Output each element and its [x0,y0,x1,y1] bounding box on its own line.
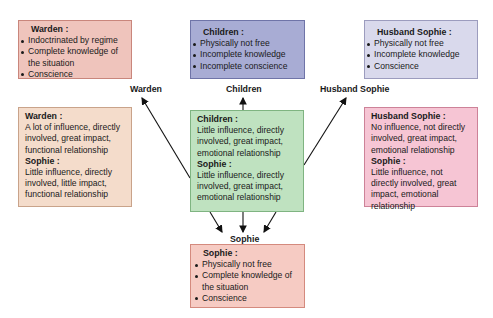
warden-traits-title: Warden : [25,24,126,35]
sophie-traits-box: Sophie : Physically not free Complete kn… [190,244,305,308]
children-trait: Incomplete knowledge [192,49,299,60]
children-trait: Incomplete conscience [192,61,299,72]
warden-relationship-box: Warden : A lot of influence, directly in… [18,107,132,207]
warden-rel-title: Warden : [25,111,126,122]
sophie-trait: Physically not free [194,259,299,270]
husband-trait: Incomplete knowledge [366,49,472,60]
husband-trait: Conscience [366,61,472,72]
sophie-rel-title: Sophie : [371,156,472,167]
sophie-rel-desc: Little influence, not directly involved,… [371,167,472,212]
sophie-rel-title: Sophie : [25,156,126,167]
children-traits-box: Children : Physically not free Incomplet… [190,20,305,79]
children-traits-title: Children : [197,27,299,38]
sophie-trait: Complete knowledge of the situation [194,270,299,292]
warden-rel-desc: A lot of influence, directly involved, g… [25,122,126,156]
husband-traits-title: Husband Sophie : [371,27,472,38]
husband-rel-desc: No influence, not directly involved, gre… [371,122,472,156]
husband-trait: Physically not free [366,38,472,49]
sophie-traits-title: Sophie : [197,248,299,259]
warden-trait: Complete knowledge of the situation [20,46,126,68]
center-relationship-box: Children : Little influence, directly in… [190,110,304,212]
children-label: Children [226,84,262,94]
husband-traits-box: Husband Sophie : Physically not free Inc… [364,20,478,79]
husband-relationship-box: Husband Sophie : No influence, not direc… [364,107,478,207]
warden-trait: Conscience [20,69,126,80]
children-rel-title: Children : [197,114,298,125]
sophie-rel-desc: Little influence, directly involved, lit… [25,167,126,201]
warden-label: Warden [130,84,162,94]
warden-trait: Indoctrinated by regime [20,35,126,46]
sophie-trait: Conscience [194,293,299,304]
sophie-label: Sophie [230,234,259,244]
husband-label: Husband Sophie [320,84,389,94]
children-trait: Physically not free [192,38,299,49]
sophie-rel-title: Sophie : [197,159,298,170]
children-rel-desc: Little influence, directly involved, gre… [197,125,298,159]
husband-rel-title: Husband Sophie : [371,111,472,122]
sophie-rel-desc: Little influence, directly involved, gre… [197,170,298,204]
warden-traits-box: Warden : Indoctrinated by regime Complet… [18,20,132,79]
